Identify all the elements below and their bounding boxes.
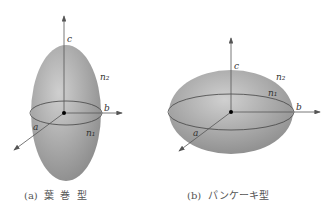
axis-b-label: b [296,102,302,112]
axis-a-label: a [33,122,38,132]
n2-label: n₂ [100,72,110,82]
caption-b: (b) パンケーキ型 [187,187,269,202]
n2-label: n₂ [276,72,286,82]
n1-label: n₁ [86,128,95,138]
ellipsoid-diagrams: c n₂ b a n₁ c n₂ n₁ b a [0,0,330,212]
oblate-ellipsoid: c n₂ n₁ b a [168,38,320,154]
axis-a-label: a [193,128,198,138]
axis-c-label: c [67,34,72,44]
n1-label: n₁ [268,88,277,98]
axis-c-label: c [234,61,239,71]
caption-a: (a) 葉 巻 型 [24,187,87,202]
prolate-ellipsoid: c n₂ b a n₁ [14,16,122,181]
axis-b-label: b [104,103,110,113]
